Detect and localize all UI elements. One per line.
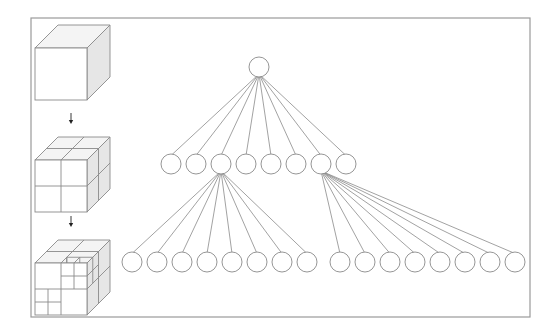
tree-root-node — [249, 57, 269, 77]
tree-edge — [321, 171, 515, 254]
octree-figure — [0, 0, 557, 336]
tree-level2-node — [247, 252, 267, 272]
tree-edge — [321, 171, 415, 254]
tree-level2-node — [505, 252, 525, 272]
tree-level2-node — [197, 252, 217, 272]
tree-edge — [321, 171, 340, 254]
tree-level2-node — [297, 252, 317, 272]
tree-edge — [207, 171, 221, 254]
tree-level1-node — [161, 154, 181, 174]
tree-level2-node — [330, 252, 350, 272]
figure-canvas — [0, 0, 557, 336]
tree-level2-node — [380, 252, 400, 272]
tree-level1-node — [236, 154, 256, 174]
octree-cubes-column — [35, 25, 110, 315]
tree-edge — [132, 171, 221, 254]
tree-edge — [182, 171, 221, 254]
tree-level2-node — [172, 252, 192, 272]
tree-level1-node — [186, 154, 206, 174]
tree-edge — [259, 74, 346, 156]
tree-level2-node — [147, 252, 167, 272]
cube-front-face — [35, 48, 87, 100]
tree-level2-node — [430, 252, 450, 272]
cube-level-2 — [35, 240, 110, 315]
down-arrow-icon — [69, 113, 73, 124]
cube-level-0 — [35, 25, 110, 100]
tree-level1-node — [311, 154, 331, 174]
tree-level2-node — [222, 252, 242, 272]
tree-edge — [157, 171, 221, 254]
tree-edge — [196, 74, 259, 156]
down-arrow-icon — [69, 216, 73, 227]
tree-edge — [221, 74, 259, 156]
tree-level1-node — [336, 154, 356, 174]
tree-edge — [246, 74, 259, 156]
tree-level2-node — [355, 252, 375, 272]
tree-edge — [321, 171, 390, 254]
tree-nodes — [122, 57, 525, 272]
tree-level1-node — [286, 154, 306, 174]
tree-level2-node — [122, 252, 142, 272]
cube-level-1 — [35, 137, 110, 212]
tree-level1-node — [261, 154, 281, 174]
tree-edge — [321, 171, 440, 254]
tree-level2-node — [480, 252, 500, 272]
tree-edge — [259, 74, 321, 156]
tree-edge — [259, 74, 271, 156]
tree-level2-node — [455, 252, 475, 272]
tree-edge — [321, 171, 490, 254]
tree-edge — [221, 171, 307, 254]
tree-level2-node — [272, 252, 292, 272]
tree-edge — [171, 74, 259, 156]
tree-level1-node — [211, 154, 231, 174]
tree-level2-node — [405, 252, 425, 272]
